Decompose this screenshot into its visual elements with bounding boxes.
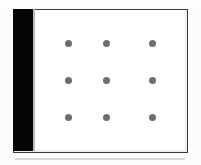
dot-grid-row <box>35 40 187 48</box>
black-gutter-bar <box>13 9 33 151</box>
grid-dot <box>149 114 156 121</box>
grid-dot <box>149 40 156 47</box>
grid-dot <box>65 40 72 47</box>
grid-dot <box>65 114 72 121</box>
grid-dot <box>65 77 72 84</box>
top-scan-edge <box>0 0 201 7</box>
dot-grid-row <box>35 114 187 122</box>
dot-grid-row <box>35 77 187 85</box>
grid-dot <box>149 77 156 84</box>
grid-dot <box>103 77 110 84</box>
nine-dot-grid <box>35 10 187 152</box>
grid-dot <box>103 40 110 47</box>
grid-dot <box>103 114 110 121</box>
baseline-rule <box>15 158 185 160</box>
scanned-page: Nine-dot grid figure <box>0 0 201 165</box>
